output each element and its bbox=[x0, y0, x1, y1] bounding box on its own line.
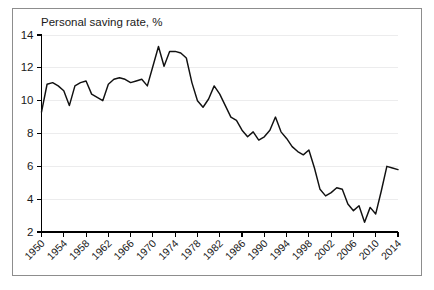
y-tick-label: 12 bbox=[21, 61, 34, 73]
x-tick-label: 1998 bbox=[289, 237, 314, 262]
x-tick-label: 2010 bbox=[356, 237, 381, 262]
x-tick-label: 1994 bbox=[267, 237, 292, 262]
x-tick-label: 1958 bbox=[66, 237, 91, 262]
figure-container: 2468101214 19501954195819621966197019741… bbox=[0, 0, 434, 290]
y-tick-label: 10 bbox=[21, 94, 34, 106]
x-tick-label: 1966 bbox=[111, 237, 136, 262]
chart-title: Personal saving rate, % bbox=[41, 16, 162, 28]
y-tick-label: 4 bbox=[27, 193, 34, 205]
x-tick-label: 2014 bbox=[378, 237, 403, 262]
x-tick-label: 1986 bbox=[222, 237, 247, 262]
x-tick-label: 1970 bbox=[133, 237, 158, 262]
x-tick-label: 1974 bbox=[156, 237, 181, 262]
y-tick-label: 6 bbox=[27, 160, 33, 172]
x-tick-label: 1982 bbox=[200, 237, 225, 262]
gridlines bbox=[42, 35, 399, 199]
x-tick-label: 1978 bbox=[178, 237, 203, 262]
y-tick-label: 14 bbox=[21, 29, 34, 41]
x-tick-label: 2006 bbox=[334, 237, 359, 262]
x-axis-tick-labels: 1950195419581962196619701974197819821986… bbox=[22, 237, 404, 262]
axis-ticks bbox=[37, 35, 398, 237]
data-series-line bbox=[42, 46, 399, 222]
y-tick-label: 2 bbox=[27, 226, 33, 238]
y-tick-label: 8 bbox=[27, 127, 33, 139]
x-tick-label: 2002 bbox=[312, 237, 337, 262]
line-chart: 2468101214 19501954195819621966197019741… bbox=[0, 0, 434, 290]
x-tick-label: 1954 bbox=[44, 237, 69, 262]
x-tick-label: 1950 bbox=[22, 237, 47, 262]
y-axis-tick-labels: 2468101214 bbox=[21, 29, 34, 238]
x-tick-label: 1962 bbox=[89, 237, 114, 262]
x-tick-label: 1990 bbox=[245, 237, 270, 262]
